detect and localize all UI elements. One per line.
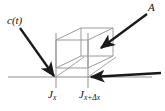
box-depth-edges: [56, 28, 113, 68]
concentration-arrow: [20, 28, 54, 76]
label-concentration: c(t): [7, 15, 22, 26]
label-flux-left: Jx: [48, 89, 56, 102]
box-front-face: [56, 40, 88, 68]
figure-canvas: c(t) A Jx Jx+Δx: [0, 0, 165, 111]
flux-out-arrow: [91, 73, 161, 77]
label-area: A: [148, 2, 155, 13]
label-flux-right: Jx+Δx: [79, 89, 100, 102]
ground-plane-guides: [56, 57, 116, 77]
label-flux-right-subscript: x+Δx: [84, 93, 100, 102]
label-flux-left-subscript: x: [53, 93, 56, 102]
